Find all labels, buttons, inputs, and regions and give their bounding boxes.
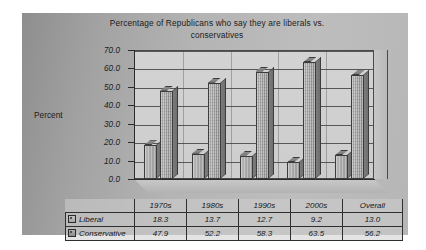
table-row: Conservative 47.9 52.2 58.3 63.5 56.2: [66, 227, 403, 241]
data-table-body: 1970s 1980s 1990s 2000s Overall Liberal …: [66, 199, 403, 241]
table-cell: 58.3: [238, 227, 290, 241]
chart-title-line-2: conservatives: [191, 30, 244, 40]
table-cell: 9.2: [290, 213, 342, 227]
y-tick: [128, 142, 134, 143]
chart-title-line-1: Percentage of Republicans who say they a…: [110, 18, 324, 28]
plot-floor: [134, 179, 388, 193]
category-header-cell: Overall: [342, 199, 402, 213]
bar-front-face: [208, 83, 221, 179]
bar-conservative-1990s: [256, 72, 269, 179]
legend-label: Conservative: [79, 229, 126, 238]
y-tick: [128, 161, 134, 162]
y-tick-label: 50.0: [104, 82, 120, 91]
legend-swatch-icon: [68, 215, 76, 223]
table-cell: 56.2: [342, 227, 402, 241]
category-separator: [278, 50, 279, 179]
gridline: [135, 69, 373, 70]
category-header-cell: 1970s: [135, 199, 187, 213]
legend-item-liberal: Liberal: [66, 213, 135, 227]
category-separator: [183, 50, 184, 179]
bar-liberal-1970s: [144, 145, 157, 179]
bar-front-face: [160, 91, 173, 179]
bar-front-face: [351, 75, 364, 179]
y-tick: [128, 105, 134, 106]
category-header-cell: 1990s: [238, 199, 290, 213]
bar-conservative-1970s: [160, 91, 173, 179]
category-separator: [231, 50, 232, 179]
table-cell: 52.2: [186, 227, 238, 241]
category-separator: [326, 50, 327, 179]
bar-conservative-2000s: [303, 62, 316, 179]
chart-title: Percentage of Republicans who say they a…: [62, 18, 372, 41]
category-header-cell: 2000s: [290, 199, 342, 213]
bar-front-face: [335, 155, 348, 179]
table-cell: 13.0: [342, 213, 402, 227]
table-cell: 63.5: [290, 227, 342, 241]
bar-conservative-overall: [351, 75, 364, 179]
y-tick: [128, 68, 134, 69]
y-tick-label: 40.0: [104, 101, 120, 110]
gridline: [135, 88, 373, 89]
table-corner-cell: [66, 199, 135, 213]
table-cell: 47.9: [135, 227, 187, 241]
y-tick-label: 60.0: [104, 64, 120, 73]
y-tick: [128, 179, 134, 180]
y-tick-label: 30.0: [104, 119, 120, 128]
legend-swatch-icon: [68, 229, 76, 237]
bar-front-face: [144, 145, 157, 179]
x-axis-line: [134, 179, 375, 180]
category-header-row: 1970s 1980s 1990s 2000s Overall: [66, 199, 403, 213]
table-cell: 12.7: [238, 213, 290, 227]
table-cell: 18.3: [135, 213, 187, 227]
y-tick-label: 70.0: [104, 46, 120, 55]
chart-data-table: 1970s 1980s 1990s 2000s Overall Liberal …: [65, 199, 403, 241]
plot-side-wall: [374, 50, 388, 179]
y-tick: [128, 87, 134, 88]
gridline: [135, 51, 373, 52]
y-tick-label: 0.0: [109, 175, 120, 184]
category-header-cell: 1980s: [186, 199, 238, 213]
bar-front-face: [287, 162, 300, 179]
y-tick-label: 20.0: [104, 138, 120, 147]
y-tick-label: 10.0: [104, 156, 120, 165]
bar-liberal-1980s: [192, 154, 205, 179]
table-row: Liberal 18.3 13.7 12.7 9.2 13.0: [66, 213, 403, 227]
chart-page: Percentage of Republicans who say they a…: [0, 0, 426, 250]
bar-front-face: [303, 62, 316, 179]
y-axis-line: [134, 50, 135, 180]
y-axis-title: Percent: [34, 110, 63, 120]
legend-label: Liberal: [79, 215, 103, 224]
bar-front-face: [256, 72, 269, 179]
bar-liberal-1990s: [240, 156, 253, 179]
bar-liberal-2000s: [287, 162, 300, 179]
bar-front-face: [240, 156, 253, 179]
bar-front-face: [192, 154, 205, 179]
bar-conservative-1980s: [208, 83, 221, 179]
table-cell: 13.7: [186, 213, 238, 227]
y-tick: [128, 124, 134, 125]
bar-liberal-overall: [335, 155, 348, 179]
y-tick: [128, 50, 134, 51]
chart-panel: Percentage of Republicans who say they a…: [22, 13, 408, 235]
plot-region: 70.0 60.0 50.0 40.0 30.0 20.0 10.0 0.0: [102, 45, 400, 205]
legend-item-conservative: Conservative: [66, 227, 135, 241]
